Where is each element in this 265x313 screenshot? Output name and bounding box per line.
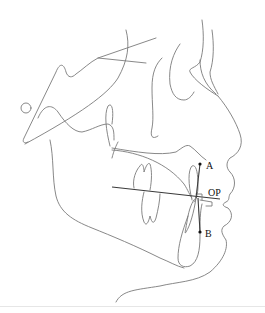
palatal-plane [112, 145, 206, 160]
occlusal-plane-line [112, 187, 220, 199]
label-occlusal-plane: OP [208, 187, 221, 198]
occlusal-plane [112, 187, 220, 206]
mandible [50, 140, 184, 268]
porion-circle [21, 103, 31, 113]
frankfort-line [98, 58, 146, 63]
nasion-curve [200, 60, 216, 94]
nasal-bone-outer [210, 30, 218, 94]
orbit-structures [151, 20, 218, 138]
point-b-marker [198, 230, 201, 233]
cephalometric-tracing: A OP B [0, 0, 265, 313]
sella-outline [23, 38, 156, 143]
lower-incisor [185, 198, 196, 233]
facial-profile [116, 96, 241, 302]
pterygoid-loop [106, 105, 113, 146]
label-point-b: B [205, 228, 212, 239]
label-point-a: A [206, 160, 214, 171]
point-a-marker [198, 162, 201, 165]
upper-molar [133, 163, 151, 190]
orbit-posterior [151, 58, 162, 138]
maxilla [112, 145, 206, 198]
soft-tissue-profile [116, 96, 241, 302]
mandibular-border [50, 140, 184, 268]
b-projection-line [198, 198, 200, 232]
condyle-curve [38, 107, 114, 140]
palate-curve [112, 150, 192, 198]
lower-molar [142, 192, 160, 224]
cranial-structures [21, 30, 156, 158]
bottom-divider [0, 306, 265, 307]
molars [133, 163, 160, 224]
